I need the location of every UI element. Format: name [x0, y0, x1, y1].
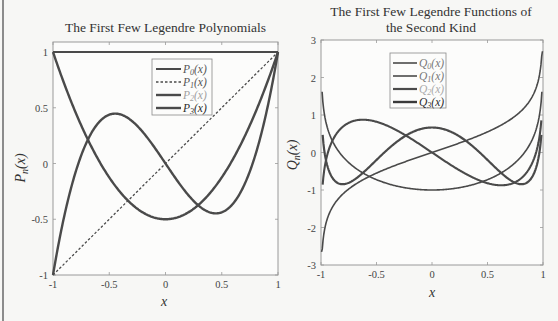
x-tick-label: 0	[429, 269, 434, 280]
right-x-axis-label: x	[428, 285, 436, 300]
left-chart: -1-0.500.51-1-0.500.51 x Pn(x) P0(x) P1(…	[13, 42, 281, 309]
y-tick-label: -1	[39, 270, 48, 281]
legend-label-p0: P0(x)	[182, 63, 207, 77]
x-tick-label: 0.5	[481, 269, 494, 280]
y-tick-label: 3	[311, 35, 316, 46]
left-legend: P0(x) P1(x) P2(x) P3(x)	[152, 59, 212, 116]
x-tick-label: -1	[49, 279, 58, 290]
left-x-axis-label: x	[160, 294, 168, 309]
y-tick-label: -2	[307, 223, 316, 234]
left-y-axis-label: Pn(x)	[13, 153, 30, 183]
legend-label-q0: Q0(x)	[419, 57, 444, 71]
y-tick-label: 1	[311, 110, 316, 121]
x-tick-label: 0.5	[215, 279, 228, 290]
x-tick-label: -1	[317, 269, 326, 280]
y-tick-label: -3	[307, 260, 316, 271]
legend-label-p1: P1(x)	[182, 76, 207, 90]
right-chart: -1-0.500.51-3-2-10123 x Qn(x) Q0(x) Q1(x…	[285, 35, 546, 300]
x-tick-label: 1	[540, 269, 545, 280]
y-tick-label: -0.5	[31, 214, 48, 225]
charts-canvas: -1-0.500.51-1-0.500.51 x Pn(x) P0(x) P1(…	[0, 0, 558, 321]
legend-label-q3: Q3(x)	[419, 96, 444, 110]
x-tick-label: 1	[275, 279, 280, 290]
right-legend: Q0(x) Q1(x) Q2(x) Q3(x)	[390, 53, 446, 110]
x-tick-label: -0.5	[368, 269, 385, 280]
y-tick-label: 2	[311, 73, 316, 84]
legend-label-q1: Q1(x)	[419, 70, 444, 84]
legend-label-q2: Q2(x)	[419, 83, 444, 97]
x-tick-label: 0	[163, 279, 168, 290]
y-tick-label: 0	[43, 159, 48, 170]
y-tick-label: 0	[311, 148, 316, 159]
x-tick-label: -0.5	[101, 279, 118, 290]
y-tick-label: 1	[43, 47, 48, 58]
y-tick-label: 0.5	[35, 103, 48, 114]
y-tick-label: -1	[307, 185, 316, 196]
right-y-axis-label: Qn(x)	[285, 139, 302, 170]
legend-label-p2: P2(x)	[182, 89, 207, 103]
legend-label-p3: P3(x)	[182, 102, 207, 116]
